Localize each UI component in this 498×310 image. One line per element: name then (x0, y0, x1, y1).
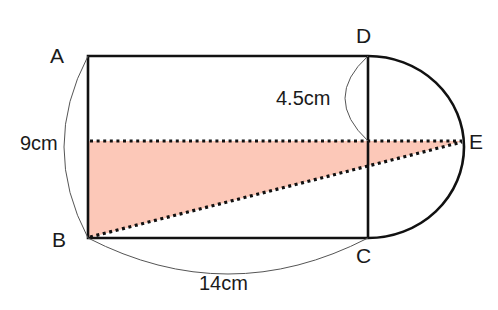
label-point-e: E (469, 130, 483, 153)
label-point-c: C (356, 244, 371, 267)
dimension-arc-d-mid (345, 56, 368, 141)
diagram-canvas: A D E B C 9cm 14cm 4.5cm (0, 0, 498, 310)
dimension-arc-ab (64, 56, 88, 238)
label-dimension-bc: 14cm (199, 272, 248, 294)
label-dimension-d-mid: 4.5cm (276, 87, 330, 109)
dimension-arc-bc (88, 238, 368, 274)
geometry-diagram: A D E B C 9cm 14cm 4.5cm (0, 0, 498, 310)
label-point-a: A (50, 44, 64, 67)
label-dimension-ab: 9cm (20, 132, 58, 154)
label-point-b: B (52, 228, 66, 251)
label-point-d: D (356, 24, 371, 47)
